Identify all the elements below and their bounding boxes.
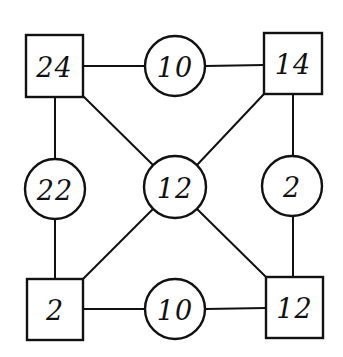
circle-node-ci-left: 22 <box>25 159 85 219</box>
edge-sq-br-ci-center <box>197 209 266 277</box>
circle-node-ci-right: 2 <box>262 156 322 216</box>
nodes-layer: 2414212102212210 <box>25 33 323 340</box>
node-value: 14 <box>275 49 311 80</box>
circle-node-ci-top: 10 <box>145 36 205 96</box>
number-graph-diagram: 2414212102212210 <box>0 0 343 357</box>
node-value: 12 <box>276 293 312 324</box>
circle-node-ci-bottom: 10 <box>145 279 205 339</box>
square-node-sq-tl: 24 <box>26 35 83 97</box>
node-value: 2 <box>45 295 64 326</box>
node-value: 10 <box>157 295 193 326</box>
square-node-sq-br: 12 <box>266 277 323 338</box>
node-value: 24 <box>35 52 72 83</box>
node-value: 10 <box>157 52 193 83</box>
edge-ci-bottom-sq-br <box>205 308 266 309</box>
node-value: 22 <box>36 175 73 206</box>
edge-ci-top-sq-tr <box>205 65 264 66</box>
square-node-sq-bl: 2 <box>27 279 83 340</box>
edge-sq-bl-ci-center <box>83 209 153 279</box>
node-value: 12 <box>157 173 193 204</box>
circle-node-ci-center: 12 <box>144 156 206 218</box>
node-value: 2 <box>282 172 301 203</box>
square-node-sq-tr: 14 <box>264 33 322 94</box>
edge-sq-tr-ci-center <box>197 94 264 165</box>
edge-sq-tl-ci-center <box>83 96 153 165</box>
